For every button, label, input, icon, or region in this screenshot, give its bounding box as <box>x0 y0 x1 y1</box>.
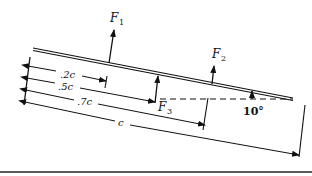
svg-text:.7c: .7c <box>77 96 93 107</box>
plate-diagram: 10° F 1 F 3 F 2 .2c .5c .7c <box>0 0 312 176</box>
svg-text:F: F <box>109 11 119 25</box>
svg-text:c: c <box>118 117 124 128</box>
svg-text:3: 3 <box>167 107 172 116</box>
extension-line-02c <box>105 76 107 88</box>
svg-text:F: F <box>211 47 221 61</box>
svg-text:.5c: .5c <box>58 81 74 92</box>
force-f3: F 3 <box>155 76 172 116</box>
svg-text:1: 1 <box>119 18 124 27</box>
force-f2: F 2 <box>211 47 226 84</box>
angle-label: 10° <box>243 105 264 118</box>
force-f1: F 1 <box>109 11 124 63</box>
svg-text:2: 2 <box>221 54 226 63</box>
svg-text:F: F <box>157 100 167 114</box>
dimension-origin-line <box>24 57 30 105</box>
dimension-02c: .2c <box>28 66 106 81</box>
svg-text:.2c: .2c <box>60 69 76 80</box>
extension-line-c <box>299 105 305 157</box>
